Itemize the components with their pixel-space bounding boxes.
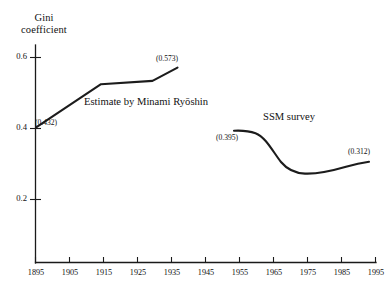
point-label-ssm-end: (0.312) <box>348 148 370 157</box>
y-tick-label-1: 0.4 <box>7 123 27 133</box>
chart-canvas <box>0 0 390 291</box>
x-tick-label-1985: 1985 <box>334 268 350 277</box>
x-tick-marks <box>36 257 376 263</box>
series-label-minami: Estimate by Minami Ryōshin <box>84 96 208 108</box>
y-axis-title-line1: Gini <box>8 12 80 24</box>
point-label-ssm-start: (0.395) <box>216 134 238 143</box>
x-tick-label-1975: 1975 <box>300 268 316 277</box>
x-tick-label-1955: 1955 <box>232 268 248 277</box>
x-tick-label-1935: 1935 <box>164 268 180 277</box>
point-label-minami-start: (0.432) <box>35 119 57 128</box>
y-tick-label-0: 0.6 <box>7 52 27 62</box>
y-axis-title: Gini coefficient <box>8 12 80 36</box>
y-axis-title-line2: coefficient <box>8 24 80 36</box>
chart-figure: Gini coefficient 0.6 0.4 0.2 1895 1905 1… <box>0 0 390 291</box>
x-tick-label-1905: 1905 <box>62 268 78 277</box>
x-tick-label-1965: 1965 <box>266 268 282 277</box>
axes-group <box>36 45 377 263</box>
x-tick-label-1915: 1915 <box>96 268 112 277</box>
x-tick-label-1895: 1895 <box>28 268 44 277</box>
series-label-ssm: SSM survey <box>263 111 315 123</box>
x-tick-label-1925: 1925 <box>130 268 146 277</box>
x-tick-label-1945: 1945 <box>198 268 214 277</box>
y-tick-label-2: 0.2 <box>7 194 27 204</box>
point-label-minami-end: (0.573) <box>156 55 178 64</box>
x-tick-label-1995: 1995 <box>368 268 384 277</box>
